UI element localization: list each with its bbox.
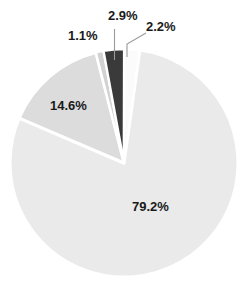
pie-chart: 79.2% 14.6% 1.1% 2.9% 2.2% — [0, 0, 249, 298]
pie-label-22: 2.2% — [146, 20, 176, 33]
pie-label-11: 1.1% — [68, 29, 98, 42]
pie-label-29: 2.9% — [108, 9, 138, 22]
pie-label-146: 14.6% — [50, 99, 87, 112]
pie-chart-canvas — [0, 0, 249, 298]
pie-label-79: 79.2% — [132, 200, 169, 213]
